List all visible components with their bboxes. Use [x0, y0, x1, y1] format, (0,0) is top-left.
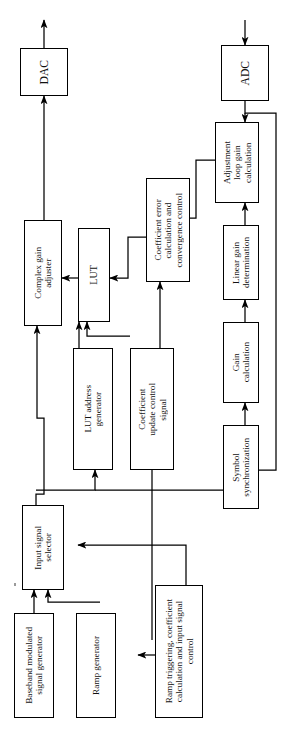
block-complex-gain-adjuster-label: Complex gain adjuster [33, 247, 54, 299]
edge-rampctl-to-inpsel [78, 545, 186, 585]
edge-cecc-to-lut [110, 237, 146, 278]
block-adc-label: ADC [239, 61, 252, 85]
block-linear-gain-determination[interactable]: Linear gain determination [223, 225, 259, 300]
block-ramp-generator-label: Ramp generator [91, 636, 101, 695]
block-coefficient-update-control-signal[interactable]: Coefficient update control signal [130, 348, 174, 470]
block-ramp-triggering-control[interactable]: Ramp triggering, coefficient calculation… [155, 585, 203, 718]
block-adjustment-loop-gain-calculation[interactable]: Adjustment loop gain calculation [215, 122, 259, 203]
block-input-signal-selector[interactable]: Input signal selector [22, 505, 64, 590]
block-gain-calculation[interactable]: Gain calculation [223, 322, 259, 403]
edge-rampgen-to-inpsel [48, 590, 100, 602]
block-adc[interactable]: ADC [221, 45, 269, 101]
block-adjustment-loop-gain-calculation-label: Adjustment loop gain calculation [222, 141, 253, 184]
block-dac-label: DAC [38, 60, 51, 84]
block-coefficient-error-calculation[interactable]: Coefficient error calculation and conver… [146, 178, 190, 282]
block-ramp-triggering-control-label: Ramp triggering, coefficient calculation… [164, 599, 195, 703]
block-coefficient-error-calculation-label: Coefficient error calculation and conver… [153, 193, 184, 268]
block-linear-gain-determination-label: Linear gain determination [231, 237, 252, 288]
block-lut-address-generator[interactable]: LUT address generator [73, 348, 113, 470]
block-coefficient-update-control-signal-label: Coefficient update control signal [137, 383, 168, 436]
block-lut[interactable]: LUT [78, 228, 110, 322]
edge-inpsel-to-lutaddr [36, 470, 95, 490]
block-lut-label: LUT [88, 265, 99, 285]
block-gain-calculation-label: Gain calculation [231, 342, 252, 382]
block-diagram-canvas: DAC ADC Complex gain adjuster LUT Coeffi… [0, 0, 286, 736]
block-dac[interactable]: DAC [20, 48, 68, 96]
edge-inpsel-to-cga [36, 326, 44, 505]
block-complex-gain-adjuster[interactable]: Complex gain adjuster [24, 220, 62, 326]
block-ramp-generator[interactable]: Ramp generator [76, 613, 116, 718]
block-input-signal-selector-label: Input signal selector [33, 526, 54, 570]
block-symbol-synchronization[interactable]: Symbol synchronization [223, 425, 259, 509]
block-symbol-synchronization-label: Symbol synchronization [231, 438, 252, 497]
block-baseband-modulated-signal-generator-label: Baseband modulated signal generator [24, 627, 45, 704]
scan-artifact-speck [14, 583, 16, 586]
block-lut-address-generator-label: LUT address generator [83, 385, 104, 433]
block-baseband-modulated-signal-generator[interactable]: Baseband modulated signal generator [14, 613, 54, 718]
edge-cucs-to-lut [87, 322, 130, 336]
